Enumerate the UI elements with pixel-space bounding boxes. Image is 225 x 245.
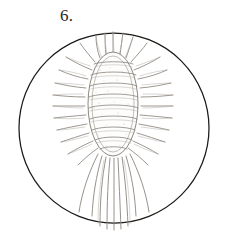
illustration-plate: 6.	[0, 0, 225, 245]
organism-group	[53, 32, 173, 230]
figure-drawing	[0, 0, 225, 245]
caudal-cirri	[79, 154, 149, 230]
body-outline	[88, 52, 138, 156]
